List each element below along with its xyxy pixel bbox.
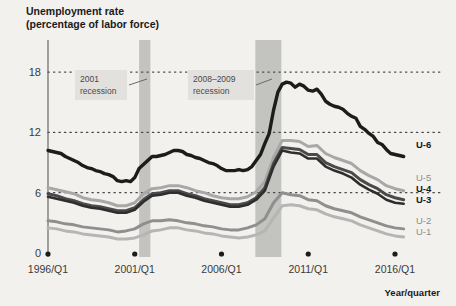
x-axis-caption: Year/quarter xyxy=(385,287,441,298)
y-tick-12: 12 xyxy=(29,126,41,138)
series-label-u-1: U-1 xyxy=(416,226,431,237)
series-label-u-6: U-6 xyxy=(416,139,431,150)
x-tick-dot-2001-Q1 xyxy=(132,251,137,256)
chart-title: Unemployment rate xyxy=(26,5,124,17)
x-tick-dot-2016-Q1 xyxy=(392,251,397,256)
series-label-u-3: U-3 xyxy=(416,194,431,205)
annotation-label-recession-2001-word: recession xyxy=(80,86,117,96)
x-tick-dot-2011-Q1 xyxy=(306,251,311,256)
y-tick-18: 18 xyxy=(29,66,41,78)
series-label-u-4: U-4 xyxy=(416,183,432,194)
series-label-u-2: U-2 xyxy=(416,215,431,226)
y-tick-6: 6 xyxy=(35,187,41,199)
chart-figure: 061218 1996/Q12001/Q12006/Q12011/Q12016/… xyxy=(0,0,456,306)
chart-background xyxy=(0,0,456,306)
x-tick-dot-1996-Q1 xyxy=(45,251,50,256)
annotation-label-recession-2001-year: 2001 xyxy=(80,74,99,84)
x-tick-label-2001-Q1: 2001/Q1 xyxy=(115,263,155,275)
unemployment-rate-chart: 061218 1996/Q12001/Q12006/Q12011/Q12016/… xyxy=(0,0,456,306)
x-tick-label-1996-Q1: 1996/Q1 xyxy=(28,263,68,275)
x-tick-dot-2006-Q1 xyxy=(219,251,224,256)
x-tick-label-2011-Q1: 2011/Q1 xyxy=(288,263,328,275)
y-tick-0: 0 xyxy=(35,247,41,259)
x-tick-label-2016-Q1: 2016/Q1 xyxy=(375,263,415,275)
x-tick-label-2006-Q1: 2006/Q1 xyxy=(201,263,241,275)
chart-subtitle: (percentage of labor force) xyxy=(26,18,159,30)
series-label-u-5: U-5 xyxy=(416,172,431,183)
annotation-label-recession-2008-2009-year: 2008–2009 xyxy=(193,74,236,84)
annotation-label-recession-2008-2009-word: recession xyxy=(193,86,230,96)
